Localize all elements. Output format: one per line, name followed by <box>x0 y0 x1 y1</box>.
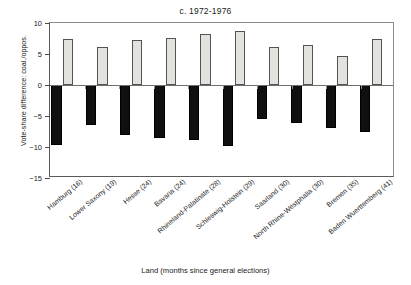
y-tick <box>45 116 50 117</box>
x-tick-label: Bremen (35) <box>325 178 359 208</box>
y-tick <box>45 23 50 24</box>
bar-group <box>187 23 221 176</box>
y-tick-label: 5 <box>38 50 42 59</box>
bar-negative <box>189 85 199 140</box>
bar-negative <box>51 85 61 145</box>
bar-group <box>221 23 255 176</box>
y-tick <box>45 178 50 179</box>
bar-negative <box>223 85 233 146</box>
x-tick-label: Bavaria (24) <box>153 178 187 208</box>
y-tick-label: 0 <box>38 81 42 90</box>
y-tick-label: −5 <box>33 112 42 121</box>
bar-positive <box>303 45 313 85</box>
chart-title: c. 1972-1976 <box>0 6 411 16</box>
x-tick <box>257 85 258 89</box>
x-tick <box>223 85 224 89</box>
bar-group <box>290 23 324 176</box>
x-tick <box>119 85 120 89</box>
bar-group <box>84 23 118 176</box>
bar-group <box>359 23 393 176</box>
y-tick-label: −10 <box>29 143 42 152</box>
x-tick <box>292 85 293 89</box>
y-tick <box>45 54 50 55</box>
bar-group <box>256 23 290 176</box>
x-tick-label: Hesse (24) <box>121 178 152 205</box>
x-tick-label: Saarland (30) <box>253 178 290 211</box>
bar-positive <box>269 47 279 85</box>
y-tick <box>45 147 50 148</box>
x-tick <box>326 85 327 89</box>
x-tick <box>188 85 189 89</box>
y-tick-label: 10 <box>34 19 42 28</box>
x-tick-label: Rhineland-Palatinate (28) <box>156 178 221 234</box>
bar-positive <box>337 56 347 85</box>
x-tick-label: Schleswig-Holstein (29) <box>195 178 256 231</box>
bar-group <box>324 23 358 176</box>
bar-negative <box>154 85 164 138</box>
x-tick-label: North Rhine-Westphalia (30) <box>252 178 324 240</box>
y-tick <box>45 85 50 86</box>
x-axis-title: Land (months since general elections) <box>0 266 411 275</box>
bar-positive <box>200 34 210 85</box>
x-tick <box>361 85 362 89</box>
bar-positive <box>97 47 107 85</box>
bar-positive <box>235 31 245 85</box>
bar-negative <box>291 85 301 123</box>
bar-positive <box>372 39 382 85</box>
bar-series-container <box>50 23 393 176</box>
y-tick-label: −15 <box>29 174 42 183</box>
x-tick <box>85 85 86 89</box>
bar-group <box>50 23 84 176</box>
bar-positive <box>132 40 142 85</box>
plot-area: 1050−5−10−15 <box>49 22 394 177</box>
bar-negative <box>326 85 336 128</box>
bar-group <box>119 23 153 176</box>
bar-negative <box>257 85 267 119</box>
zero-axis-line <box>50 85 393 86</box>
y-axis-title: Vote-share difference: coal./oppos. <box>19 11 28 171</box>
bar-group <box>153 23 187 176</box>
bar-negative <box>360 85 370 132</box>
bar-positive <box>63 39 73 85</box>
x-tick-label: Baden Wuerttemberg (41) <box>327 178 393 235</box>
bar-positive <box>166 38 176 85</box>
bar-negative <box>120 85 130 135</box>
bar-negative <box>86 85 96 125</box>
x-tick <box>154 85 155 89</box>
chart-figure: c. 1972-1976 Vote-share difference: coal… <box>0 0 411 285</box>
